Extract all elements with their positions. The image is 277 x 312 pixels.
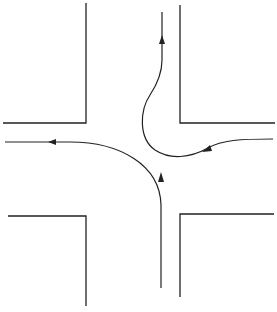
intersection-diagram	[0, 0, 277, 312]
curb-top-right	[180, 5, 275, 123]
curb-top-left	[3, 3, 86, 123]
arrow-up-icon	[158, 172, 164, 182]
curb-bottom-right	[180, 214, 274, 297]
u-turn-path	[142, 12, 273, 157]
arrow-up-icon	[159, 35, 165, 44]
curb-bottom-left	[8, 216, 86, 306]
arrow-left-icon	[48, 139, 56, 145]
left-turn-path	[5, 142, 161, 288]
